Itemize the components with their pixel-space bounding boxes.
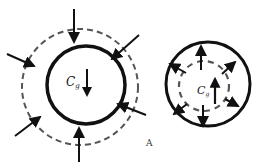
- left-diagram: Cg: [7, 9, 146, 162]
- arrow-upper-right-icon: [112, 35, 139, 59]
- diagram-canvas: Cg A Cg: [0, 0, 254, 164]
- arrow-left-icon: [170, 64, 186, 73]
- cg-label-right: Cg: [197, 84, 209, 98]
- arrow-right-icon: [225, 99, 238, 106]
- arrow-lower-left-icon: [15, 117, 40, 136]
- right-diagram: Cg: [166, 42, 250, 126]
- arrow-right-icon: [118, 104, 146, 115]
- cg-label-left: Cg: [66, 75, 80, 90]
- panel-label: A: [145, 138, 153, 148]
- arrow-upper-right-icon: [222, 62, 235, 74]
